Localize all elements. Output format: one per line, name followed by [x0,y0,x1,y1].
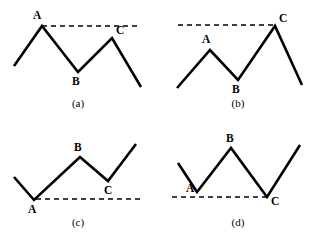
panel-c-point-label-b: B [74,141,82,153]
panel-d-caption: (d) [232,216,245,229]
panel-d-point-label-c: C [271,195,279,207]
panel-b: ABC(b) [177,12,302,110]
panel-b-point-label-b: B [232,83,240,95]
panel-a-point-label-b: B [72,75,80,87]
panel-b-zigzag-line [177,26,302,88]
panel-d-zigzag-line [178,145,300,197]
panel-b-caption: (b) [232,97,245,110]
panel-c-caption: (c) [72,216,85,229]
panel-a: ABC(a) [14,9,141,110]
panel-c-point-label-c: C [104,184,112,196]
panel-b-point-label-c: C [279,12,287,24]
panel-c: ABC(c) [14,141,140,229]
panel-a-caption: (a) [72,97,85,110]
panel-d-point-label-a: A [186,182,195,194]
panel-c-point-label-a: A [28,203,37,215]
panel-d-point-label-b: B [226,132,234,144]
panel-a-point-label-a: A [33,9,42,21]
panel-a-point-label-c: C [116,24,124,36]
panel-b-point-label-a: A [202,33,211,45]
panel-d: ABC(d) [172,132,300,229]
zigzag-pattern-figure: ABC(a)ABC(b)ABC(c)ABC(d) [0,0,315,238]
figure-container: ABC(a)ABC(b)ABC(c)ABC(d) [0,0,315,238]
